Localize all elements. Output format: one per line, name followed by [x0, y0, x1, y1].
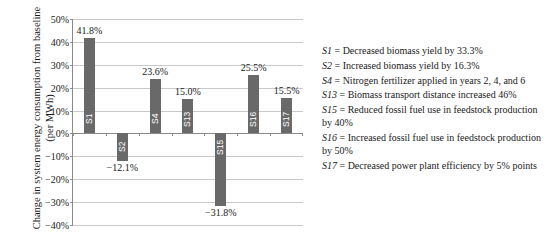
- bar-category-label: S4: [150, 107, 161, 131]
- y-axis-tick-label: −20%: [45, 174, 69, 185]
- legend-entry-s15: S15 = Reduced fossil fuel use in feedsto…: [322, 103, 550, 129]
- y-axis-tick-mark: [70, 88, 73, 89]
- x-axis-tick-mark: [302, 133, 303, 136]
- legend-entry-s16: S16 = Increased fossil fuel use in feeds…: [322, 131, 550, 157]
- legend-entry-s1: S1 = Decreased biomass yield by 33.3%: [322, 44, 550, 57]
- legend-entry-text: = Increased biomass yield by 16.3%: [332, 60, 480, 71]
- legend-entry-text: = Decreased power plant efficiency by 5%…: [337, 160, 537, 171]
- x-axis-tick-mark: [139, 133, 140, 136]
- plot-area: 50%40%30%20%10%0%−10%−20%−30%−40%S141.8%…: [72, 19, 303, 225]
- legend-entry-id: S17: [322, 160, 337, 171]
- scenario-legend: S1 = Decreased biomass yield by 33.3%S2 …: [322, 44, 550, 174]
- y-axis-tick-label: −30%: [45, 197, 69, 208]
- x-axis-tick-mark: [204, 133, 205, 136]
- y-axis-tick-mark: [70, 202, 73, 203]
- bar-category-label: S15: [215, 135, 226, 159]
- legend-entry-text: = Decreased biomass yield by 33.3%: [332, 45, 483, 56]
- y-axis-tick-label: 20%: [51, 82, 69, 93]
- gridline: [73, 156, 303, 157]
- legend-entry-id: S1: [322, 45, 332, 56]
- legend-entry-s17: S17 = Decreased power plant efficiency b…: [322, 159, 550, 172]
- y-axis-tick-label: 40%: [51, 36, 69, 47]
- bar-category-label: S16: [248, 107, 259, 131]
- x-axis-tick-mark: [106, 133, 107, 136]
- legend-entry-id: S4: [322, 75, 332, 86]
- y-axis-tick-label: 0%: [56, 128, 69, 139]
- y-axis-tick-label: 50%: [51, 14, 69, 25]
- y-axis-tick-mark: [70, 225, 73, 226]
- x-axis-tick-mark: [270, 133, 271, 136]
- bar-value-label: 23.6%: [131, 66, 179, 77]
- y-axis-tick-label: −40%: [45, 220, 69, 231]
- legend-entry-id: S2: [322, 60, 332, 71]
- legend-entry-s4: S4 = Nitrogen fertilizer applied in year…: [322, 74, 550, 87]
- bar-category-label: S17: [281, 107, 292, 131]
- gridline: [73, 202, 303, 203]
- y-axis-tick-label: 30%: [51, 59, 69, 70]
- y-axis-tick-mark: [70, 19, 73, 20]
- legend-entry-text: = Reduced fossil fuel use in feedstock p…: [322, 104, 538, 128]
- y-axis-tick-mark: [70, 65, 73, 66]
- bar-value-label: 25.5%: [230, 62, 278, 73]
- gridline: [73, 179, 303, 180]
- legend-entry-text: = Nitrogen fertilizer applied in years 2…: [332, 75, 525, 86]
- bar-category-label: S1: [84, 107, 95, 131]
- gridline: [73, 42, 303, 43]
- bar-value-label: −12.1%: [98, 162, 146, 173]
- legend-entry-id: S13: [322, 89, 337, 100]
- bar-category-label: S2: [117, 135, 128, 159]
- x-axis-tick-mark: [73, 133, 74, 136]
- gridline: [73, 19, 303, 20]
- y-axis-tick-label: 10%: [51, 105, 69, 116]
- legend-entry-id: S15: [322, 104, 337, 115]
- x-axis-tick-mark: [237, 133, 238, 136]
- y-axis-tick-mark: [70, 111, 73, 112]
- legend-entry-text: = Biomass transport distance increased 4…: [337, 89, 516, 100]
- bar-value-label: −31.8%: [197, 207, 245, 218]
- bar-value-label: 15.5%: [263, 85, 311, 96]
- legend-entry-s2: S2 = Increased biomass yield by 16.3%: [322, 59, 550, 72]
- bar-value-label: 15.0%: [164, 86, 212, 97]
- zero-axis-line: [73, 133, 303, 134]
- bar-value-label: 41.8%: [65, 25, 113, 36]
- y-axis-title-container: Change in system energy consumption from…: [0, 0, 36, 244]
- y-axis-tick-label: −10%: [45, 151, 69, 162]
- legend-entry-s13: S13 = Biomass transport distance increas…: [322, 88, 550, 101]
- y-axis-tick-mark: [70, 156, 73, 157]
- y-axis-tick-mark: [70, 179, 73, 180]
- x-axis-tick-mark: [172, 133, 173, 136]
- figure: Change in system energy consumption from…: [0, 0, 554, 244]
- gridline: [73, 225, 303, 226]
- legend-entry-text: = Increased fossil fuel use in feedstock…: [322, 132, 541, 156]
- y-axis-tick-mark: [70, 42, 73, 43]
- bar-category-label: S13: [182, 107, 193, 131]
- legend-entry-id: S16: [322, 132, 337, 143]
